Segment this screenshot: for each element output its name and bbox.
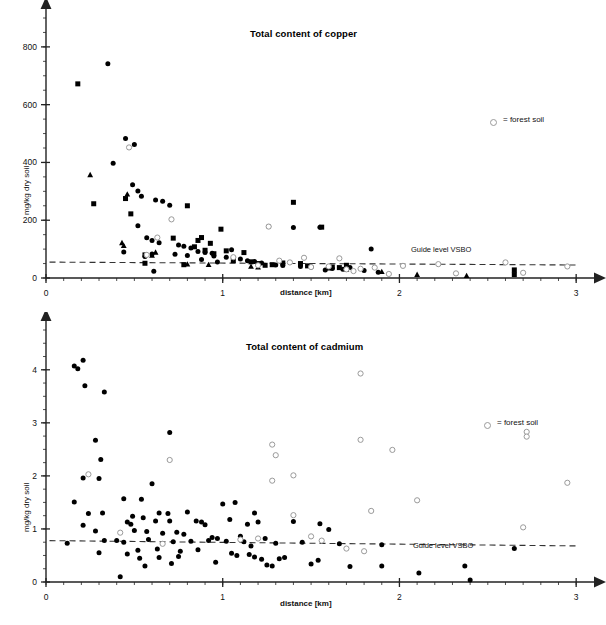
data-point <box>169 217 174 222</box>
data-point <box>291 473 296 478</box>
legend-open-circle-icon-cadmium <box>484 422 491 429</box>
x-axis-label-copper: distance [km] <box>280 288 332 297</box>
data-point <box>233 500 238 505</box>
data-point <box>185 509 190 514</box>
data-point <box>211 251 216 256</box>
y-tick-label: 0 <box>32 577 37 587</box>
data-point <box>208 241 213 246</box>
chart-panel-copper: 01230200400600800 Total content of coppe… <box>0 0 606 312</box>
data-point <box>337 265 342 270</box>
y-axis-label-copper: mg/kg dry soil <box>22 166 31 215</box>
data-point <box>93 438 98 443</box>
data-point <box>319 538 324 543</box>
data-point <box>277 258 282 263</box>
y-tick-label: 1 <box>32 524 37 534</box>
data-point <box>415 498 420 503</box>
chart-title-copper: Total content of copper <box>250 28 357 39</box>
data-point <box>167 430 172 435</box>
y-tick-label: 200 <box>23 215 37 225</box>
data-point <box>344 546 349 551</box>
data-point <box>464 273 470 278</box>
series-open-circle <box>86 371 570 554</box>
data-point <box>169 561 174 566</box>
data-point <box>128 522 133 527</box>
data-point <box>565 480 570 485</box>
data-point <box>215 260 220 265</box>
data-point <box>273 541 278 546</box>
data-point <box>326 264 331 269</box>
data-point <box>144 529 149 534</box>
data-point <box>453 271 458 276</box>
data-point <box>155 547 160 552</box>
data-point <box>414 272 420 277</box>
data-point <box>118 574 123 579</box>
data-point <box>252 511 257 516</box>
data-point <box>75 366 80 371</box>
data-point <box>270 262 275 267</box>
data-point <box>157 240 162 245</box>
data-point <box>81 358 86 363</box>
data-point <box>317 521 322 526</box>
data-point <box>181 244 186 249</box>
data-point <box>337 541 342 546</box>
data-point <box>121 540 126 545</box>
data-point <box>121 496 126 501</box>
data-point <box>132 142 137 147</box>
data-point <box>319 225 324 230</box>
data-point <box>160 199 165 204</box>
data-point <box>153 198 158 203</box>
data-point <box>160 531 165 536</box>
data-point <box>153 518 158 523</box>
data-point <box>245 522 250 527</box>
data-point <box>351 268 356 273</box>
data-point <box>102 390 107 395</box>
data-point <box>150 238 155 243</box>
data-point <box>241 250 246 255</box>
data-point <box>206 538 211 543</box>
data-point <box>361 549 366 554</box>
data-point <box>153 249 159 254</box>
series-filled-circle <box>105 61 380 275</box>
x-tick-label: 2 <box>397 592 402 602</box>
data-point <box>135 189 140 194</box>
figure-page: 01230200400600800 Total content of coppe… <box>0 0 606 625</box>
data-point <box>167 203 172 208</box>
data-point <box>130 182 135 187</box>
data-point <box>141 515 146 520</box>
data-point <box>263 263 268 268</box>
chart-panel-cadmium: 012301234 Total content of cadmium mg/kg… <box>0 312 606 624</box>
y-tick-label: 600 <box>23 100 37 110</box>
data-point <box>105 61 110 66</box>
data-point <box>199 257 204 262</box>
data-point <box>91 201 96 206</box>
data-point <box>181 532 186 537</box>
data-point <box>224 248 229 253</box>
x-tick-label: 1 <box>220 288 225 298</box>
data-point <box>151 269 156 274</box>
data-point <box>185 203 190 208</box>
data-point <box>521 270 526 275</box>
data-point <box>130 514 135 519</box>
legend-label-cadmium: = forest soil <box>497 418 538 427</box>
data-point <box>192 244 197 249</box>
data-point <box>344 267 349 272</box>
data-point <box>224 255 229 260</box>
data-point <box>124 191 130 196</box>
data-point <box>157 511 162 516</box>
guide-level-label-cadmium: Guide level VSBO <box>413 541 473 550</box>
data-point <box>167 457 172 462</box>
data-point <box>270 478 275 483</box>
data-point <box>72 499 77 504</box>
data-point <box>185 253 190 258</box>
data-point <box>82 383 87 388</box>
data-point <box>282 555 287 560</box>
data-point <box>252 555 257 560</box>
data-point <box>358 266 363 271</box>
data-point <box>93 529 98 534</box>
data-point <box>521 525 526 530</box>
data-point <box>358 437 363 442</box>
x-tick-label: 2 <box>397 288 402 298</box>
data-point <box>102 538 107 543</box>
data-point <box>171 236 176 241</box>
data-point <box>203 522 208 527</box>
